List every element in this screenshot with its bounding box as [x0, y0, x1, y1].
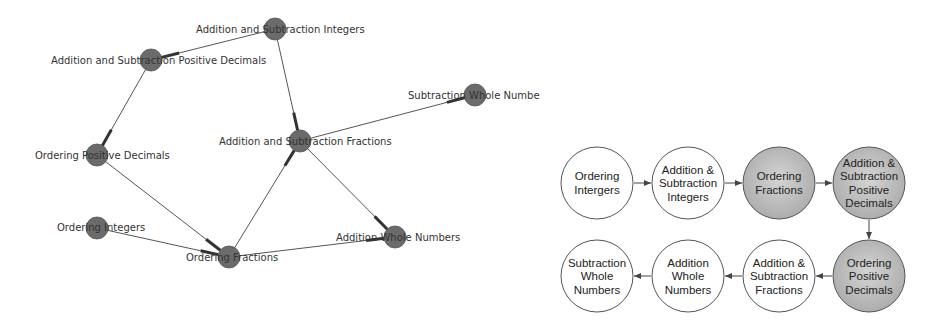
flow-step-7: AdditionWholeNumbers: [652, 240, 724, 312]
flow-step-label: Fractions: [755, 184, 803, 196]
flow-step-label: Subtraction: [840, 170, 898, 182]
flow-step-label: Ordering: [575, 170, 620, 182]
flow-step-label: Addition &: [753, 257, 806, 269]
flow-step-6: Addition &SubtractionFractions: [743, 240, 815, 312]
flow-step-label: Whole: [581, 270, 614, 282]
flow-step-label: Intergers: [574, 184, 620, 196]
flow-step-label: Numbers: [574, 284, 621, 296]
flow-step-4: Addition &SubtractionPositiveDecimals: [833, 147, 905, 219]
flow-steps: OrderingIntergersAddition &SubtractionIn…: [561, 147, 905, 312]
flow-step-label: Addition: [667, 257, 709, 269]
flow-step-label: Whole: [672, 270, 705, 282]
flow-step-label: Ordering: [847, 257, 892, 269]
flow-step-5: OrderingPositiveDecimals: [833, 240, 905, 312]
flow-step-label: Subtraction: [659, 177, 717, 189]
flow-step-label: Positive: [849, 270, 889, 282]
flow-step-label: Decimals: [845, 197, 893, 209]
flow-step-2: Addition &SubtractionIntegers: [652, 147, 724, 219]
flow-step-label: Addition &: [662, 164, 715, 176]
flow-step-8: SubtractionWholeNumbers: [561, 240, 633, 312]
flow-step-label: Ordering: [757, 170, 802, 182]
flow-step-label: Fractions: [755, 284, 803, 296]
flow-step-1: OrderingIntergers: [561, 147, 633, 219]
flow-step-label: Integers: [667, 191, 709, 203]
learning-sequence-diagram: OrderingIntergersAddition &SubtractionIn…: [0, 0, 943, 331]
flow-step-label: Numbers: [665, 284, 712, 296]
flow-step-label: Subtraction: [568, 257, 626, 269]
flow-step-label: Addition &: [843, 157, 896, 169]
flow-step-label: Decimals: [845, 284, 893, 296]
flow-step-label: Positive: [849, 184, 889, 196]
flow-step-3: OrderingFractions: [743, 147, 815, 219]
flow-step-label: Subtraction: [750, 270, 808, 282]
